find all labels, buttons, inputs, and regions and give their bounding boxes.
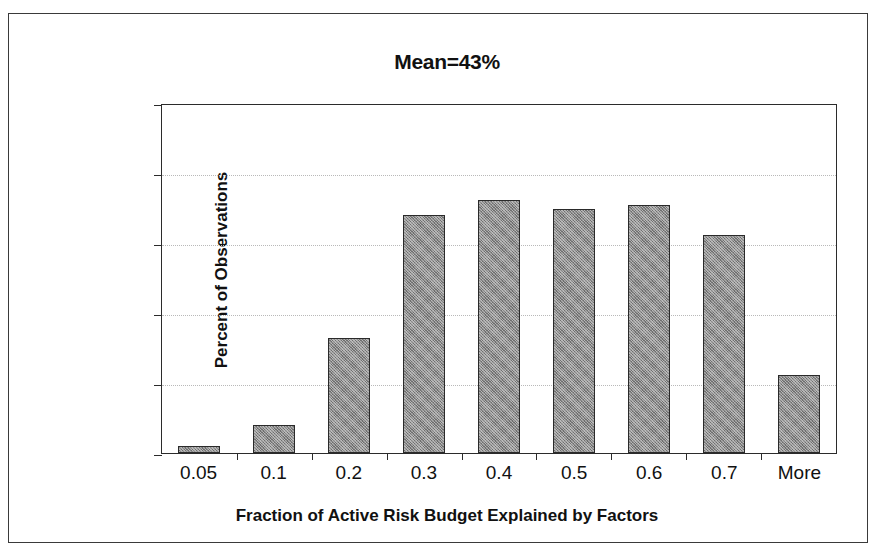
bar[interactable] <box>628 205 670 453</box>
x-axis-tick-label: 0.3 <box>386 462 461 484</box>
x-axis-tick-mark <box>761 453 762 460</box>
bar[interactable] <box>778 375 820 453</box>
x-axis-title: Fraction of Active Risk Budget Explained… <box>9 506 876 526</box>
bar-series <box>162 105 836 453</box>
chart-frame: Mean=43% Percent of Observations 0%5%10%… <box>8 13 868 543</box>
x-axis-tick-label: 0.4 <box>461 462 536 484</box>
x-axis-tick-label: 0.1 <box>236 462 311 484</box>
bar[interactable] <box>328 338 370 453</box>
x-axis-tick-label: 0.6 <box>612 462 687 484</box>
bar-slot <box>162 105 237 453</box>
y-axis-tick-mark <box>154 105 162 106</box>
x-axis-tick-mark <box>611 453 612 460</box>
bar-slot <box>462 105 537 453</box>
chart-title: Mean=43% <box>9 50 876 74</box>
y-axis-tick-mark <box>154 245 162 246</box>
bar[interactable] <box>253 425 295 453</box>
x-axis-tick-mark <box>312 453 313 460</box>
y-axis-tick-mark <box>154 385 162 386</box>
x-axis-tick-label: 0.5 <box>537 462 612 484</box>
x-axis-tick-label: 0.2 <box>311 462 386 484</box>
y-axis-tick-mark <box>154 175 162 176</box>
bar[interactable] <box>553 209 595 453</box>
x-axis-tick-label: 0.7 <box>687 462 762 484</box>
bar-slot <box>312 105 387 453</box>
x-axis-tick-label: 0.05 <box>161 462 236 484</box>
plot-area: Percent of Observations 0%5%10%15%20%25% <box>161 104 837 454</box>
bar[interactable] <box>478 200 520 453</box>
bar-slot <box>761 105 836 453</box>
bar-slot <box>686 105 761 453</box>
y-axis-tick-mark <box>154 315 162 316</box>
x-axis-tick-labels: 0.050.10.20.30.40.50.60.7More <box>161 462 837 484</box>
bar-slot <box>237 105 312 453</box>
x-axis-tick-mark <box>686 453 687 460</box>
bar-slot <box>611 105 686 453</box>
x-axis-tick-mark <box>462 453 463 460</box>
x-axis-tick-mark <box>536 453 537 460</box>
x-axis-tick-mark <box>237 453 238 460</box>
bar[interactable] <box>703 235 745 453</box>
bar-slot <box>536 105 611 453</box>
x-axis-tick-mark <box>387 453 388 460</box>
x-axis-tick-label: More <box>762 462 837 484</box>
bar-slot <box>387 105 462 453</box>
bar[interactable] <box>178 446 220 453</box>
y-axis-tick-mark <box>154 455 162 456</box>
bar[interactable] <box>403 215 445 453</box>
